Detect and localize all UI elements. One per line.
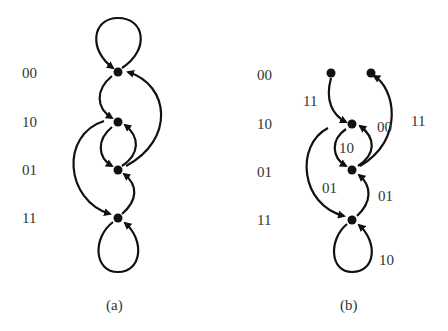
edge-label-b-11-self: 10 [379, 252, 394, 268]
edge-a-01-to-00 [126, 72, 161, 166]
node-a-00 [114, 68, 123, 77]
node-b-01 [348, 166, 357, 175]
state-label-11: 11 [257, 212, 271, 228]
edge-b-11-to-01 [357, 175, 369, 216]
edge-label-b-10-to-01: 10 [339, 140, 354, 156]
node-a-11 [114, 214, 123, 223]
state-label-10: 10 [22, 114, 37, 130]
node-b-11 [348, 216, 357, 225]
state-label-00: 00 [257, 67, 272, 83]
panel-a: 00 10 01 11 (a) [22, 18, 161, 314]
node-a-10 [114, 118, 123, 127]
state-label-10: 10 [257, 116, 272, 132]
state-label-01: 01 [257, 164, 272, 180]
panel-b: 00 10 01 11 11 11 00 10 01 01 10 (b) [257, 67, 425, 314]
node-b-00-left [327, 69, 336, 78]
node-b-10 [348, 120, 357, 129]
state-label-11: 11 [22, 210, 36, 226]
edge-label-b-10-to-11: 01 [322, 180, 337, 196]
edge-label-b-00-to-10: 11 [303, 93, 317, 109]
edge-a-00-self [96, 18, 141, 68]
trellis-state-diagram: 00 10 01 11 (a) 00 10 01 11 11 [0, 0, 448, 331]
state-label-00: 00 [22, 65, 37, 81]
state-label-01: 01 [22, 162, 37, 178]
edge-a-10-to-01 [101, 127, 112, 166]
edge-a-11-self [99, 222, 139, 272]
caption-a: (a) [106, 297, 123, 314]
edge-label-b-10-to-00: 00 [377, 119, 392, 135]
edge-b-11-self [334, 224, 372, 272]
edge-a-11-to-01 [122, 174, 134, 214]
node-a-01 [114, 166, 123, 175]
edge-a-00-to-10 [100, 76, 112, 118]
edge-label-b-11-to-01: 01 [378, 188, 393, 204]
node-b-00-right [367, 69, 376, 78]
edge-a-01-to-10 [122, 125, 136, 166]
edge-b-00-to-10 [329, 78, 346, 122]
caption-b: (b) [340, 297, 358, 314]
edge-label-b-01-to-00: 11 [411, 113, 425, 129]
